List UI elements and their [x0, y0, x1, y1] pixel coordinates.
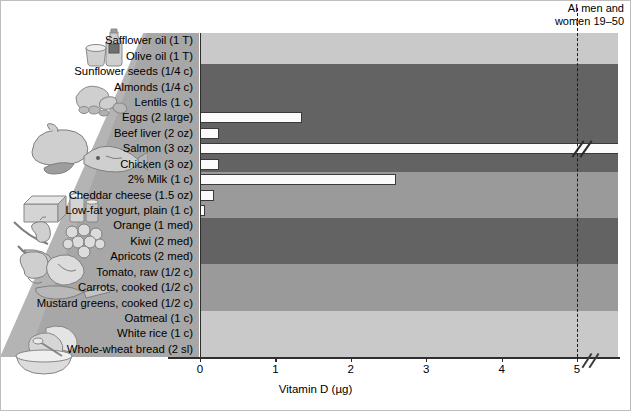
category-label-0: Safflower oil (1 T)	[105, 34, 193, 46]
x-tick-label-3: 3	[423, 363, 429, 375]
bar-chicken-3-oz	[200, 159, 219, 170]
category-label-15: Tomato, raw (1/2 c)	[96, 266, 193, 278]
ai-reference-line	[577, 8, 578, 357]
x-tick-label-0: 0	[197, 363, 203, 375]
category-label-16: Carrots, cooked (1/2 c)	[78, 281, 193, 293]
category-labels: Safflower oil (1 T)Olive oil (1 T)Sunflo…	[0, 33, 197, 357]
ai-reference-label-line1: AI men and	[555, 2, 624, 15]
y-axis-line	[200, 33, 202, 357]
x-tick-0	[200, 357, 201, 362]
bar-cheddar-cheese-1-5-oz	[200, 190, 214, 201]
x-tick-3	[426, 357, 427, 362]
x-tick-label-2: 2	[348, 363, 354, 375]
category-label-17: Mustard greens, cooked (1/2 c)	[37, 297, 193, 309]
x-tick-label-1: 1	[272, 363, 278, 375]
x-tick-4	[502, 357, 503, 362]
x-axis-title: Vitamin D (µg)	[0, 383, 631, 395]
x-tick-label-4: 4	[498, 363, 504, 375]
category-label-12: Orange (1 med)	[113, 219, 193, 231]
x-tick-5	[577, 357, 578, 362]
category-label-11: Low-fat yogurt, plain (1 c)	[66, 204, 193, 216]
x-axis-line	[168, 357, 620, 359]
ai-reference-label-line2: women 19–50	[555, 15, 624, 28]
bars-group	[200, 33, 618, 357]
bar-salmon-3-oz	[200, 143, 618, 154]
category-label-5: Eggs (2 large)	[122, 111, 193, 123]
ai-reference-label: AI men and women 19–50	[555, 2, 624, 28]
vitamin-d-bar-chart: Safflower oil (1 T)Olive oil (1 T)Sunflo…	[0, 0, 631, 411]
category-label-1: Olive oil (1 T)	[126, 50, 193, 62]
plot-area	[200, 33, 618, 357]
category-label-3: Almonds (1/4 c)	[114, 81, 193, 93]
category-label-7: Salmon (3 oz)	[123, 142, 193, 154]
bar-2-milk-1-c	[200, 174, 396, 185]
category-label-9: 2% Milk (1 c)	[128, 173, 193, 185]
category-label-20: Whole-wheat bread (2 sl)	[67, 343, 193, 355]
category-label-19: White rice (1 c)	[117, 327, 193, 339]
bar-eggs-2-large	[200, 112, 302, 123]
category-label-8: Chicken (3 oz)	[120, 158, 193, 170]
category-label-6: Beef liver (2 oz)	[114, 127, 193, 139]
x-tick-2	[351, 357, 352, 362]
bar-beef-liver-2-oz	[200, 128, 219, 139]
x-axis-title-text: Vitamin D (µg)	[279, 383, 353, 395]
category-label-2: Sunflower seeds (1/4 c)	[74, 65, 193, 77]
category-label-13: Kiwi (2 med)	[130, 235, 193, 247]
x-tick-1	[275, 357, 276, 362]
category-label-10: Cheddar cheese (1.5 oz)	[69, 189, 193, 201]
category-label-4: Lentils (1 c)	[135, 96, 193, 108]
category-label-18: Oatmeal (1 c)	[125, 312, 193, 324]
category-label-14: Apricots (2 med)	[110, 250, 193, 262]
x-tick-label-5: 5	[574, 363, 580, 375]
